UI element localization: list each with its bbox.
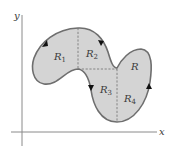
y-axis-label: y (13, 10, 20, 21)
x-axis-label: x (159, 126, 165, 137)
label-r: R (130, 61, 139, 72)
region-diagram: y x R1 R2 R R3 R4 (0, 0, 177, 155)
region-boundary (33, 28, 152, 122)
